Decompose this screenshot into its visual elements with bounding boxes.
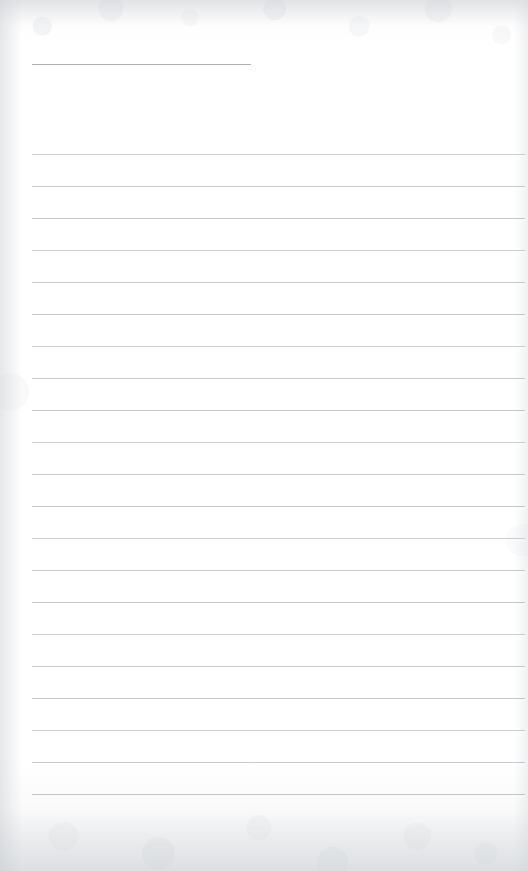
- ruled-line[interactable]: [32, 634, 525, 635]
- ruled-line[interactable]: [32, 378, 525, 379]
- ruled-line[interactable]: [32, 474, 525, 475]
- ruled-line[interactable]: [32, 506, 525, 507]
- ruled-line[interactable]: [32, 154, 525, 155]
- writing-area[interactable]: [0, 0, 528, 871]
- ruled-line[interactable]: [32, 666, 525, 667]
- ruled-line[interactable]: [32, 346, 525, 347]
- ruled-line[interactable]: [32, 218, 525, 219]
- ruled-line[interactable]: [32, 410, 525, 411]
- ruled-line[interactable]: [32, 602, 525, 603]
- scanned-page: [0, 0, 528, 871]
- ruled-line[interactable]: [32, 698, 525, 699]
- ruled-line[interactable]: [32, 282, 525, 283]
- ruled-line[interactable]: [32, 314, 525, 315]
- ruled-line[interactable]: [32, 762, 525, 763]
- ruled-line[interactable]: [32, 250, 525, 251]
- ruled-line[interactable]: [32, 570, 525, 571]
- ruled-line[interactable]: [32, 186, 525, 187]
- ruled-line[interactable]: [32, 538, 525, 539]
- ruled-line[interactable]: [32, 442, 525, 443]
- ruled-line[interactable]: [32, 730, 525, 731]
- ruled-line[interactable]: [32, 794, 525, 795]
